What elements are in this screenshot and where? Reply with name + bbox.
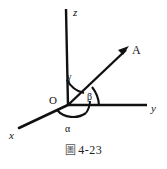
x-axis-line [19, 104, 70, 128]
origin-label: O [49, 94, 57, 106]
alpha-arc [57, 110, 86, 117]
vector-a-label: A [132, 43, 141, 57]
gamma-angle-label: γ [66, 71, 72, 82]
z-axis-line [66, 9, 68, 106]
alpha-angle-label: α [65, 123, 71, 134]
beta-angle-label: β [87, 91, 92, 102]
x-axis-label: x [8, 129, 14, 141]
figure-container: z y x A O γ β α 圖4-23 [0, 0, 167, 169]
y-axis-label: y [150, 102, 156, 114]
figure-caption: 圖4-23 [0, 141, 167, 158]
beta-arc [92, 87, 99, 105]
caption-number: 4-23 [78, 143, 102, 157]
vector-a-arrowhead [118, 46, 129, 55]
z-axis-label: z [72, 6, 78, 18]
caption-mark-character: 圖 [65, 144, 79, 157]
alpha-arc-tail [86, 101, 90, 113]
